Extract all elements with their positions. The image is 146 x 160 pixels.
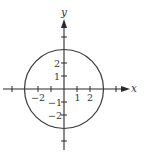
- x-axis-arrow-icon: [121, 86, 130, 92]
- y-tick-label-neg2: −2: [48, 110, 62, 121]
- y-axis-arrow-icon: [61, 19, 67, 28]
- circle-graph: −2 1 2 2 1 −1 −2 x y: [0, 0, 146, 160]
- x-axis-label: x: [131, 82, 137, 94]
- x-tick-label-neg2: −2: [31, 92, 45, 103]
- y-tick-label-2: 2: [54, 58, 60, 69]
- y-axis-label: y: [60, 6, 68, 18]
- y-tick-label-neg1: −1: [48, 97, 62, 108]
- y-tick-label-1: 1: [54, 71, 60, 82]
- x-tick-label-2: 2: [87, 92, 93, 103]
- x-tick-label-1: 1: [75, 92, 81, 103]
